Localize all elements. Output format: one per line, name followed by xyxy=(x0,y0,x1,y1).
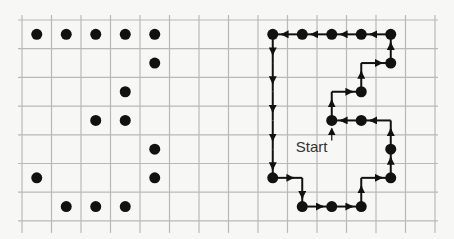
traced-dot xyxy=(297,201,308,212)
dot xyxy=(120,201,131,212)
dot xyxy=(149,172,160,183)
traced-dot xyxy=(385,172,396,183)
traced-dot xyxy=(326,29,337,40)
dot xyxy=(120,29,131,40)
dot xyxy=(120,86,131,97)
traced-dot xyxy=(267,29,278,40)
traced-dot xyxy=(356,29,367,40)
dot xyxy=(149,144,160,155)
dot xyxy=(90,29,101,40)
traced-dot xyxy=(326,201,337,212)
traced-dot xyxy=(267,172,278,183)
traced-dot xyxy=(356,115,367,126)
traced-dot xyxy=(385,144,396,155)
dot xyxy=(31,172,42,183)
dot xyxy=(31,29,42,40)
traced-dot xyxy=(385,58,396,69)
traced-dot xyxy=(326,115,337,126)
dot xyxy=(149,58,160,69)
dot xyxy=(90,201,101,212)
dot xyxy=(90,115,101,126)
dot xyxy=(61,201,72,212)
traced-dot xyxy=(297,29,308,40)
dot xyxy=(61,29,72,40)
grid-paper xyxy=(18,15,438,233)
traced-dot xyxy=(356,201,367,212)
dot xyxy=(149,29,160,40)
start-label: Start xyxy=(296,138,328,155)
contour-tracing-diagram xyxy=(0,0,454,239)
left-dot-pattern xyxy=(31,29,160,212)
dot xyxy=(120,115,131,126)
traced-dot xyxy=(385,29,396,40)
traced-dot xyxy=(356,86,367,97)
